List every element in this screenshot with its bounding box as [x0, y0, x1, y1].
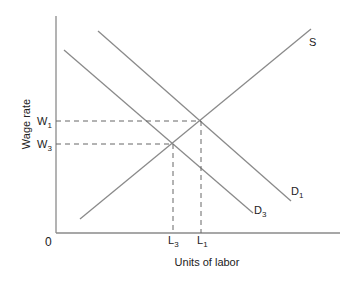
tick-w1: W1	[37, 115, 52, 130]
label-d1: D1	[291, 185, 304, 200]
label-d3: D3	[254, 204, 267, 219]
labor-market-diagram: Wage rate W1 W3 0 L3 L1 Units of labor S…	[0, 0, 355, 287]
origin-label: 0	[45, 235, 52, 249]
label-s: S	[309, 36, 316, 48]
demand-curve-d3	[64, 50, 253, 213]
x-axis-label: Units of labor	[175, 256, 240, 268]
supply-curve-s	[80, 29, 311, 219]
tick-w3: W3	[37, 138, 52, 153]
y-axis-label: Wage rate	[20, 99, 32, 149]
tick-l3: L3	[168, 234, 179, 249]
tick-l1: L1	[197, 234, 208, 249]
demand-curve-d1	[98, 31, 291, 201]
